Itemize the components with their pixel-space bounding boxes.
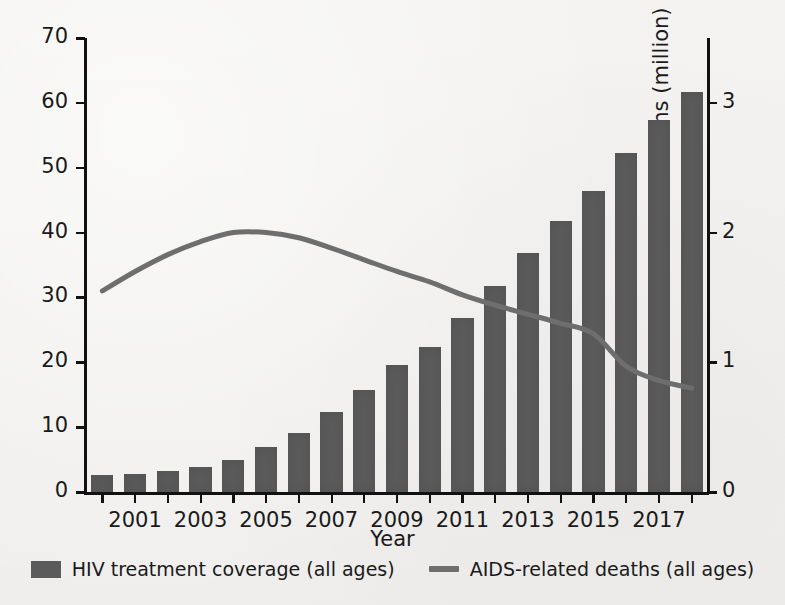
y-right-tick-label-1: 1	[722, 348, 762, 372]
y-left-tick-label-60: 60	[8, 89, 68, 113]
plot-area: 010203040506070 0123 2001200320052007200…	[86, 38, 708, 492]
x-tick-2014	[560, 493, 562, 503]
x-tick-label-2003: 2003	[166, 508, 236, 532]
x-tick-label-2007: 2007	[297, 508, 367, 532]
y-left-tick-0	[76, 491, 85, 494]
legend-item-2[interactable]: AIDS-related deaths (all ages)	[429, 558, 755, 580]
y-left-tick-label-0: 0	[8, 478, 68, 502]
x-tick-2007	[331, 493, 333, 503]
x-tick-2001	[134, 493, 136, 503]
x-tick-label-2001: 2001	[100, 508, 170, 532]
x-tick-label-2005: 2005	[231, 508, 301, 532]
x-tick-label-2015: 2015	[558, 508, 628, 532]
y-right-tick-label-0: 0	[722, 478, 762, 502]
y-left-tick-10	[76, 426, 85, 429]
chart-legend: HIV treatment coverage (all ages)AIDS-re…	[0, 558, 785, 580]
y-left-tick-label-70: 70	[8, 24, 68, 48]
y-right-tick-3	[707, 102, 717, 105]
x-tick-2018	[691, 493, 693, 503]
y-left-tick-40	[76, 232, 85, 235]
y-right-tick-0	[707, 491, 717, 494]
x-tick-2004	[232, 493, 234, 503]
y-left-tick-label-50: 50	[8, 154, 68, 178]
x-tick-2010	[429, 493, 431, 503]
y-right-tick-1	[707, 361, 717, 364]
x-tick-2015	[592, 493, 594, 503]
x-tick-2003	[200, 493, 202, 503]
legend-item-1[interactable]: HIV treatment coverage (all ages)	[31, 558, 395, 580]
y-left-tick-label-20: 20	[8, 348, 68, 372]
y-right-tick-label-3: 3	[722, 89, 762, 113]
x-tick-2005	[265, 493, 267, 503]
x-tick-2017	[658, 493, 660, 503]
x-tick-2006	[298, 493, 300, 503]
y-left-tick-50	[76, 167, 85, 170]
x-tick-label-2017: 2017	[624, 508, 694, 532]
legend-label: HIV treatment coverage (all ages)	[72, 558, 395, 580]
chart-container: Antiretroviral therapy coverage (%) Numb…	[0, 0, 785, 605]
deaths-line-series	[86, 38, 708, 492]
x-tick-2013	[527, 493, 529, 503]
deaths-line-path	[102, 232, 691, 389]
x-tick-2011	[461, 493, 463, 503]
x-tick-2012	[494, 493, 496, 503]
legend-bar-swatch-icon	[31, 561, 61, 578]
x-tick-label-2009: 2009	[362, 508, 432, 532]
y-right-tick-2	[707, 232, 717, 235]
x-tick-2000	[101, 493, 103, 503]
y-left-tick-30	[76, 296, 85, 299]
y-right-tick-label-2: 2	[722, 219, 762, 243]
y-left-tick-label-30: 30	[8, 283, 68, 307]
x-tick-label-2013: 2013	[493, 508, 563, 532]
x-tick-2008	[363, 493, 365, 503]
y-left-tick-label-10: 10	[8, 413, 68, 437]
y-left-tick-70	[76, 37, 85, 40]
x-tick-label-2011: 2011	[427, 508, 497, 532]
x-tick-2016	[625, 493, 627, 503]
y-left-tick-20	[76, 361, 85, 364]
y-left-tick-60	[76, 102, 85, 105]
legend-line-swatch-icon	[429, 566, 459, 572]
x-tick-2009	[396, 493, 398, 503]
y-left-tick-label-40: 40	[8, 219, 68, 243]
legend-label: AIDS-related deaths (all ages)	[470, 558, 755, 580]
x-tick-2002	[167, 493, 169, 503]
